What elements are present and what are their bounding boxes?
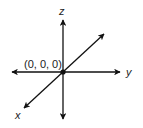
coordinate-axes-diagram: z y x (0, 0, 0) [0, 0, 143, 128]
origin-label: (0, 0, 0) [24, 58, 62, 70]
x-axis-label: x [14, 109, 21, 121]
origin-point [60, 69, 65, 74]
z-axis-label: z [58, 5, 65, 17]
y-axis-label: y [125, 66, 133, 78]
